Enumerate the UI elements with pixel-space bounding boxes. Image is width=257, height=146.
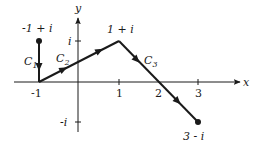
start-point-label: -1 + i — [22, 22, 52, 35]
y-tick-label-neg-i: -i — [60, 116, 67, 129]
y-tick-label-i: i — [68, 35, 72, 48]
x-tick-label-2: 2 — [155, 87, 162, 100]
x-axis-label: x — [243, 76, 250, 89]
x-axis: x — [14, 76, 250, 89]
peak-point-label: 1 + i — [107, 23, 134, 36]
end-point-dot — [195, 119, 201, 125]
c3-label: C3 — [144, 54, 158, 69]
start-point-dot — [36, 38, 42, 44]
x-tick-label-3: 3 — [195, 87, 202, 100]
x-tick-label-1: 1 — [116, 87, 123, 100]
c2-label: C2 — [56, 52, 70, 67]
contour-diagram: x y -1 1 2 3 i -i -1 + i 1 + — [0, 0, 257, 146]
segment-c2 — [39, 41, 119, 82]
x-tick-label-neg1: -1 — [31, 87, 42, 100]
c2-direction-arrow-icon-2 — [94, 46, 104, 56]
end-point-label: 3 - i — [183, 130, 204, 143]
y-axis: y — [74, 2, 82, 132]
y-axis-label: y — [74, 2, 82, 15]
c1-label: C1 — [24, 55, 38, 70]
